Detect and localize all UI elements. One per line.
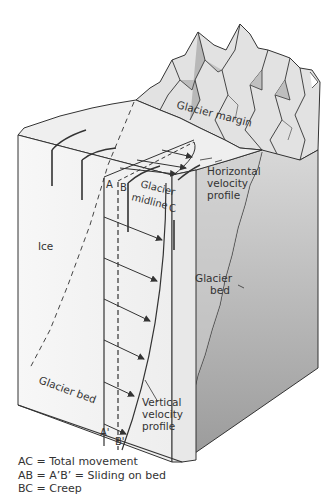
legend-item-total-movement: AC = Total movement [18, 455, 166, 469]
legend: AC = Total movement AB = A’B’ = Sliding … [18, 455, 166, 496]
label-vertical-3: profile [142, 420, 175, 432]
label-point-a-prime: A' [100, 427, 110, 438]
label-point-b: B [120, 182, 127, 193]
label-horizontal-2: velocity [207, 177, 248, 189]
label-glacier-bed-right-2: bed [210, 284, 230, 296]
glacier-diagram: Glacier margin Horizontal velocity profi… [0, 0, 336, 497]
label-point-b-prime: B' [115, 436, 125, 447]
legend-item-sliding: AB = A’B’ = Sliding on bed [18, 469, 166, 483]
label-vertical-1: Vertical [142, 396, 181, 408]
label-horizontal-1: Horizontal [207, 165, 261, 177]
label-horizontal-3: profile [207, 189, 240, 201]
label-point-a: A [106, 179, 113, 190]
legend-item-creep: BC = Creep [18, 482, 166, 496]
label-point-c: C [169, 203, 176, 214]
label-ice: Ice [38, 240, 53, 252]
label-vertical-2: velocity [142, 408, 183, 420]
label-glacier-bed-right-1: Glacier [195, 272, 233, 284]
